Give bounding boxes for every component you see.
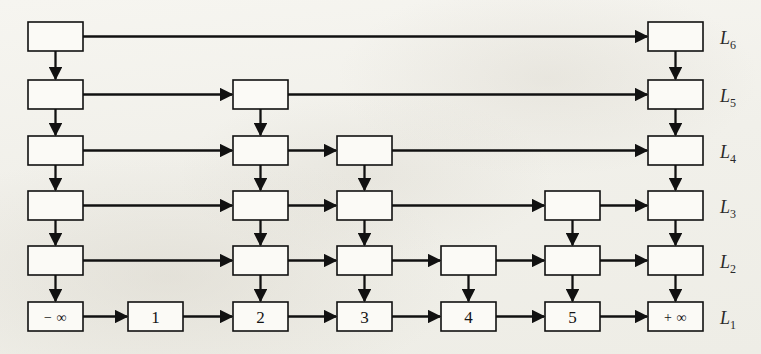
skip-list-figure: − ∞12345+ ∞ L6L5L4L3L2L1 xyxy=(0,0,761,354)
skip-list-node[interactable]: 3 xyxy=(337,302,392,331)
node-box[interactable] xyxy=(337,246,392,275)
skip-list-node[interactable] xyxy=(648,22,703,51)
skip-list-node[interactable] xyxy=(233,136,288,165)
skip-list-node[interactable]: 5 xyxy=(545,302,600,331)
skip-list-node[interactable]: − ∞ xyxy=(28,302,83,331)
level-label-subscript: 6 xyxy=(730,38,736,52)
skip-list-node[interactable] xyxy=(28,246,83,275)
skip-list-svg: − ∞12345+ ∞ L6L5L4L3L2L1 xyxy=(0,0,761,354)
skip-list-node[interactable] xyxy=(545,246,600,275)
skip-list-node[interactable] xyxy=(337,191,392,220)
node-box[interactable] xyxy=(648,246,703,275)
node-box[interactable] xyxy=(545,246,600,275)
node-key-label: 4 xyxy=(464,308,473,327)
node-box[interactable] xyxy=(337,136,392,165)
skip-list-node[interactable] xyxy=(28,80,83,109)
level-label-l5: L5 xyxy=(719,86,736,110)
skip-list-node[interactable] xyxy=(28,191,83,220)
skip-list-node[interactable]: + ∞ xyxy=(648,302,703,331)
skip-list-node[interactable] xyxy=(233,80,288,109)
skip-list-node[interactable] xyxy=(233,191,288,220)
skip-list-node[interactable]: 2 xyxy=(233,302,288,331)
node-key-label: 3 xyxy=(360,308,369,327)
node-key-label: 5 xyxy=(568,308,577,327)
level-labels-layer: L6L5L4L3L2L1 xyxy=(719,28,736,332)
skip-list-node[interactable]: 1 xyxy=(128,302,183,331)
node-key-label: 1 xyxy=(151,308,160,327)
skip-list-node[interactable] xyxy=(648,80,703,109)
node-box[interactable] xyxy=(648,22,703,51)
node-box[interactable] xyxy=(233,191,288,220)
skip-list-node[interactable] xyxy=(337,246,392,275)
node-box[interactable] xyxy=(28,246,83,275)
node-box[interactable] xyxy=(441,246,496,275)
level-label-l6: L6 xyxy=(719,28,736,52)
node-box[interactable] xyxy=(337,191,392,220)
node-box[interactable] xyxy=(28,136,83,165)
node-key-label: − ∞ xyxy=(44,310,67,325)
level-label-subscript: 1 xyxy=(730,318,736,332)
node-box[interactable] xyxy=(28,22,83,51)
level-label-l3: L3 xyxy=(719,197,736,221)
skip-list-node[interactable] xyxy=(28,136,83,165)
node-box[interactable] xyxy=(648,136,703,165)
level-label-subscript: 4 xyxy=(730,152,736,166)
level-label-subscript: 2 xyxy=(730,262,736,276)
node-box[interactable] xyxy=(648,80,703,109)
skip-list-node[interactable] xyxy=(648,246,703,275)
node-key-label: + ∞ xyxy=(664,310,687,325)
node-box[interactable] xyxy=(233,80,288,109)
node-box[interactable] xyxy=(233,136,288,165)
level-label-l2: L2 xyxy=(719,252,736,276)
level-label-subscript: 5 xyxy=(730,96,736,110)
node-box[interactable] xyxy=(545,191,600,220)
skip-list-node[interactable] xyxy=(28,22,83,51)
skip-list-node[interactable] xyxy=(233,246,288,275)
skip-list-node[interactable] xyxy=(648,136,703,165)
skip-list-node[interactable] xyxy=(545,191,600,220)
node-box[interactable] xyxy=(648,191,703,220)
skip-list-node[interactable]: 4 xyxy=(441,302,496,331)
level-label-subscript: 3 xyxy=(730,207,736,221)
node-box[interactable] xyxy=(28,191,83,220)
skip-list-node[interactable] xyxy=(648,191,703,220)
node-box[interactable] xyxy=(28,80,83,109)
level-label-l1: L1 xyxy=(719,308,736,332)
level-label-l4: L4 xyxy=(719,142,736,166)
node-key-label: 2 xyxy=(256,308,265,327)
skip-list-node[interactable] xyxy=(441,246,496,275)
skip-list-node[interactable] xyxy=(337,136,392,165)
node-box[interactable] xyxy=(233,246,288,275)
